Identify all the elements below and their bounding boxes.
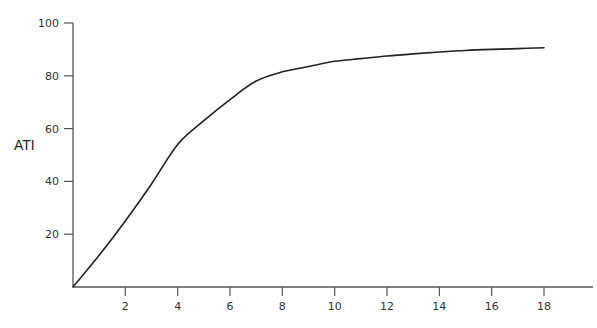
y-tick-label: 80 [45, 70, 59, 83]
x-tick-label: 2 [122, 300, 129, 313]
x-tick-label: 8 [279, 300, 286, 313]
x-tick-label: 6 [227, 300, 234, 313]
x-tick-label: 18 [537, 300, 551, 313]
y-tick-label: 20 [45, 228, 59, 241]
x-tick-label: 16 [485, 300, 499, 313]
x-tick-label: 4 [174, 300, 181, 313]
x-tick-label: 10 [328, 300, 342, 313]
y-axis-title: ATI [14, 137, 35, 153]
x-axis: 24681012141618 [73, 287, 593, 313]
ati-curve [73, 48, 544, 287]
y-tick-label: 100 [38, 17, 59, 30]
y-ticks: 20406080100 [38, 17, 73, 241]
y-axis: 20406080100 [38, 17, 73, 287]
y-tick-label: 40 [45, 175, 59, 188]
x-ticks: 24681012141618 [122, 287, 551, 313]
x-tick-label: 14 [432, 300, 446, 313]
ati-line-chart: 20406080100 24681012141618 ATI [0, 0, 597, 328]
y-tick-label: 60 [45, 123, 59, 136]
x-tick-label: 12 [380, 300, 394, 313]
